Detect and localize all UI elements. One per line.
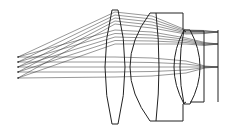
lens-ray-diagram [0,0,233,138]
ray-bundles [18,12,218,79]
light-ray [18,67,218,78]
light-ray [18,12,218,57]
light-ray [18,62,218,67]
